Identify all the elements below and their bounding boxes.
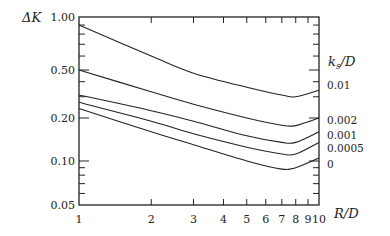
- plot-frame: [79, 17, 319, 205]
- curve-ks-0_0005: [79, 102, 319, 155]
- series-label: 0: [327, 158, 334, 170]
- y-tick-label: 1.00: [51, 11, 76, 24]
- x-tick-label: 3: [190, 213, 197, 226]
- y-tick-label: 0.10: [51, 155, 76, 168]
- line-chart: 123456789100.050.100.200.501.00ΔKR/Dks/D…: [0, 0, 390, 236]
- y-tick-label: 0.05: [51, 199, 76, 212]
- x-tick-label: 1: [76, 213, 83, 226]
- series-label: 0.0005: [327, 142, 364, 154]
- x-axis-title: R/D: [333, 206, 359, 221]
- y-tick-label: 0.50: [51, 64, 76, 77]
- curve-ks-0_002: [79, 70, 319, 126]
- legend-title: ks/D: [328, 54, 356, 71]
- x-tick-label: 10: [312, 213, 326, 226]
- x-tick-label: 2: [148, 213, 155, 226]
- curves: [79, 25, 319, 170]
- series-label: 0.01: [327, 79, 350, 91]
- x-tick-label: 8: [292, 213, 299, 226]
- curve-ks-0_01: [79, 25, 319, 97]
- x-tick-label: 5: [243, 213, 250, 226]
- x-tick-label: 4: [220, 213, 227, 226]
- x-tick-label: 9: [305, 213, 312, 226]
- curve-ks-0: [79, 108, 319, 169]
- series-label: 0.002: [327, 114, 357, 126]
- series-label: 0.001: [327, 129, 357, 141]
- curve-ks-0_001: [79, 95, 319, 143]
- y-tick-label: 0.20: [51, 112, 76, 125]
- x-tick-label: 7: [278, 213, 285, 226]
- x-tick-label: 6: [262, 213, 269, 226]
- axes: [79, 17, 319, 205]
- y-axis-title: ΔK: [21, 10, 42, 25]
